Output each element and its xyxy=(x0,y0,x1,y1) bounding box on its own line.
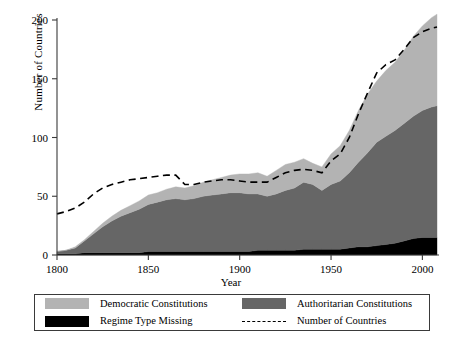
x-tick-label: 2000 xyxy=(411,263,434,275)
x-axis-title: Year xyxy=(0,276,462,288)
y-axis-title: Number of Countries xyxy=(32,0,44,162)
legend-item-authoritarian: Authoritarian Constitutions xyxy=(232,295,429,313)
chart-figure: 05010015020018001850190019502000 Number … xyxy=(0,0,462,344)
light-gray-swatch-icon xyxy=(45,298,89,309)
legend-item-number-of-countries: Number of Countries xyxy=(232,313,429,331)
x-tick-label: 1800 xyxy=(46,263,69,275)
legend-item-missing: Regime Type Missing xyxy=(35,313,232,331)
x-tick-label: 1950 xyxy=(320,263,343,275)
legend-label-democratic: Democratic Constitutions xyxy=(100,299,208,310)
x-tick-label: 1900 xyxy=(229,263,252,275)
dashed-line-sample-icon xyxy=(242,316,286,327)
legend-label-missing: Regime Type Missing xyxy=(100,316,192,327)
legend-label-authoritarian: Authoritarian Constitutions xyxy=(297,299,412,310)
y-tick-label: 0 xyxy=(43,249,49,261)
dark-gray-swatch-icon xyxy=(242,298,286,309)
chart-plot-area: 05010015020018001850190019502000 xyxy=(0,0,462,344)
legend-item-democratic: Democratic Constitutions xyxy=(35,295,232,313)
x-tick-label: 1850 xyxy=(137,263,160,275)
black-swatch-icon xyxy=(45,316,89,327)
y-tick-label: 50 xyxy=(37,190,49,202)
legend-label-number-of-countries: Number of Countries xyxy=(297,316,386,327)
chart-legend: Democratic Constitutions Authoritarian C… xyxy=(34,294,430,331)
